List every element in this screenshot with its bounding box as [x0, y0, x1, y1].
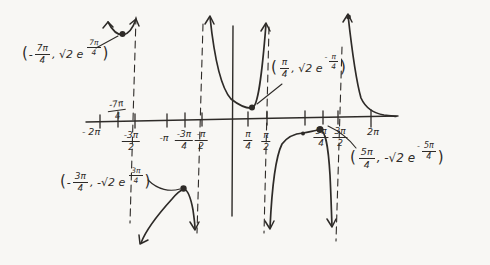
point-pi-4 — [249, 105, 255, 111]
branch-min-at-pi-4 — [210, 17, 266, 108]
tick-label--3pi-4: -3π4 — [175, 130, 193, 151]
small-dot-near-pi — [301, 132, 305, 136]
tick-label--2pi: - 2π — [82, 127, 100, 137]
point--7pi-4 — [120, 31, 126, 37]
tick-label--pi-2: -π2 — [195, 130, 208, 151]
tick-label--3pi-2: -3π2 — [122, 131, 140, 152]
ink-strokes — [86, 14, 398, 244]
leader-p3 — [148, 180, 180, 190]
curve-branches — [108, 15, 396, 243]
tick-label-pi-4: π4 — [243, 130, 252, 151]
tick-label-2pi: 2π — [367, 127, 379, 137]
branch-right-of-3pi-2 — [348, 15, 396, 116]
point-label--7pi-4: (-7π4, √2 e7π4) — [22, 44, 108, 65]
marked-points — [120, 15, 351, 192]
tick-label-5pi-4: 5π4 — [313, 127, 328, 148]
point-label--3pi-4: (-3π4, -√2 e3π4) — [60, 172, 150, 193]
point-label-pi-4: (π4, √2 e-π4) — [271, 58, 346, 79]
tick-label-pi-2: π2 — [261, 131, 270, 152]
tick-label--pi: -π — [159, 133, 168, 143]
arrow-tip-blob — [346, 15, 351, 20]
asymptotes — [130, 17, 342, 241]
branch-max-at--3pi-4 — [141, 189, 195, 243]
point--3pi-4 — [180, 185, 186, 191]
tick-label--7pi-4: -7π4 — [106, 99, 127, 122]
tick-label-3pi-2: 3π2 — [332, 127, 347, 148]
y-axis — [232, 26, 233, 216]
leader-p2 — [257, 84, 282, 104]
point-label-5pi-4: (5π4, -√2 e-5π4) — [350, 147, 444, 169]
hand-drawn-graph: - 2π -7π4 -3π2 -π -3π4 -π2 π4 π2 5π4 3π2… — [0, 0, 490, 265]
